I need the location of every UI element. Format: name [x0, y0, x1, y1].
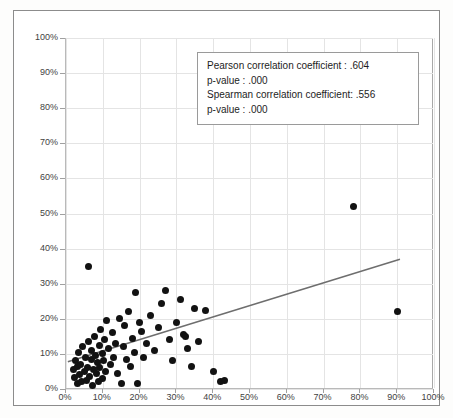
scatter-point — [127, 363, 134, 370]
y-axis-tick-label: 90% — [14, 67, 58, 77]
scatter-point — [103, 317, 110, 324]
spearman-correlation-text: Spearman correlation coefficient: .556 — [207, 88, 409, 103]
x-axis-tick-labels: 0%10%20%30%40%50%60%70%80%90%100% — [65, 392, 433, 410]
x-axis-tick-label: 20% — [119, 392, 159, 402]
x-axis-tick-label: 50% — [229, 392, 269, 402]
y-axis-tick-label: 100% — [14, 32, 58, 42]
scatter-point — [123, 356, 130, 363]
scatter-point — [118, 380, 125, 387]
scatter-point — [109, 329, 116, 336]
scatter-point — [202, 307, 209, 314]
scatter-point — [173, 319, 180, 326]
y-axis-tick-label: 20% — [14, 313, 58, 323]
scatter-point — [155, 324, 162, 331]
y-axis-tick-label: 80% — [14, 102, 58, 112]
scatter-point — [120, 343, 127, 350]
x-axis-tick-label: 60% — [266, 392, 306, 402]
y-axis-tick-label: 70% — [14, 137, 58, 147]
scatter-point — [182, 333, 189, 340]
scatter-point — [151, 347, 158, 354]
scatter-point — [138, 328, 145, 335]
x-axis-tick-label: 70% — [303, 392, 343, 402]
scatter-point — [91, 333, 98, 340]
scatter-point — [188, 363, 195, 370]
scatter-point — [105, 345, 112, 352]
gridline-vertical — [434, 38, 435, 388]
statistics-annotation-box: Pearson correlation coefficient : .604 p… — [197, 52, 419, 125]
scatter-point — [394, 308, 401, 315]
x-axis-tick-label: 10% — [82, 392, 122, 402]
y-axis-tick-label: 60% — [14, 172, 58, 182]
scatter-point — [129, 335, 136, 342]
scatter-point — [112, 340, 119, 347]
scatter-point — [210, 368, 217, 375]
scatter-point — [221, 377, 228, 384]
scatter-point — [166, 336, 173, 343]
scatter-point — [140, 354, 147, 361]
scatter-point — [114, 370, 121, 377]
y-axis-tick-labels: 0%10%20%30%40%50%60%70%80%90%100% — [14, 38, 60, 389]
scatter-point — [136, 319, 143, 326]
scatter-point — [350, 203, 357, 210]
scatter-point — [99, 350, 106, 357]
pearson-correlation-text: Pearson correlation coefficient : .604 — [207, 59, 409, 74]
y-axis-tick-label: 40% — [14, 243, 58, 253]
spearman-pvalue-text: p-value : .000 — [207, 103, 409, 118]
scatter-point — [85, 263, 92, 270]
y-axis-tick-label: 50% — [14, 208, 58, 218]
x-axis-tick-label: 0% — [45, 392, 85, 402]
scatter-point — [147, 312, 154, 319]
y-axis-tick-label: 10% — [14, 348, 58, 358]
x-axis-tick-label: 80% — [339, 392, 379, 402]
x-axis-tick-label: 100% — [413, 392, 453, 402]
x-axis-tick-label: 30% — [155, 392, 195, 402]
y-axis-tick-label: 30% — [14, 278, 58, 288]
x-axis-tick-label: 90% — [376, 392, 416, 402]
pearson-pvalue-text: p-value : .000 — [207, 74, 409, 89]
scatter-point — [107, 361, 114, 368]
x-axis-tick-label: 40% — [192, 392, 232, 402]
scatter-point — [184, 345, 191, 352]
scatter-point — [158, 300, 165, 307]
scatter-point — [177, 296, 184, 303]
chart-figure-frame: 0%10%20%30%40%50%60%70%80%90%100% 0%10%2… — [13, 10, 440, 406]
scatter-point — [96, 342, 103, 349]
scatter-point — [131, 349, 138, 356]
